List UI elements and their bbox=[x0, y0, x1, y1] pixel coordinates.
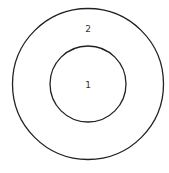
concentric-circles-diagram: 2 1 bbox=[0, 0, 169, 173]
outer-circle-label: 2 bbox=[85, 24, 91, 34]
inner-circle-label: 1 bbox=[85, 80, 91, 90]
